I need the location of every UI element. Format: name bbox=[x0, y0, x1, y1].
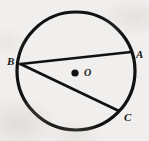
point-label-c: C bbox=[124, 112, 131, 123]
point-label-b: B bbox=[7, 56, 14, 67]
chord-bc bbox=[21, 64, 120, 111]
circle-geometry-figure: B A C O bbox=[0, 0, 149, 141]
point-label-a: A bbox=[136, 49, 143, 60]
chord-ba bbox=[21, 52, 132, 64]
center-point-label: O bbox=[84, 68, 91, 78]
center-point-dot bbox=[71, 69, 78, 76]
